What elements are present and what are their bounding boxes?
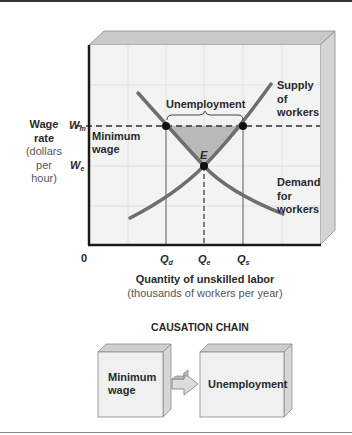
- x-axis-title: Quantity of unskilled labor (thousands o…: [55, 272, 352, 300]
- effect-box-label: Unemployment: [208, 378, 287, 391]
- minimum-wage-label: Minimum wage: [92, 130, 140, 156]
- bottom-rule: [0, 432, 352, 433]
- y-axis-title: Wage rate (dollars per hour): [14, 118, 74, 186]
- labor-market-diagram: [0, 0, 352, 435]
- cause-box-top: [98, 344, 171, 352]
- we-tick-label: We: [70, 159, 84, 172]
- qd-tick-label: Qd: [160, 253, 173, 266]
- qs-tick-label: Qs: [237, 253, 249, 266]
- supply-label: Supply of workers: [277, 79, 319, 120]
- causation-chain-title: CAUSATION CHAIN: [140, 321, 260, 333]
- equilibrium-point: [200, 162, 208, 170]
- y-axis-units-line2: per: [14, 159, 74, 173]
- unemployment-label: Unemployment: [166, 98, 245, 111]
- equilibrium-label: E: [200, 149, 207, 161]
- y-axis-title-line2: rate: [14, 132, 74, 146]
- x-axis-title-line: Quantity of unskilled labor: [55, 272, 352, 286]
- cause-box-side: [163, 344, 171, 417]
- qe-tick-label: Qe: [198, 253, 210, 266]
- chart-box-top-bevel: [89, 31, 335, 45]
- qd-point: [162, 122, 170, 130]
- y-axis-title-line1: Wage: [14, 118, 74, 132]
- x-axis-units-line: (thousands of workers per year): [55, 286, 352, 300]
- cause-box-label: Minimum wage: [108, 371, 156, 397]
- origin-label: 0: [81, 252, 87, 264]
- chart-box-side-bevel: [320, 31, 335, 245]
- effect-box-top: [200, 344, 292, 352]
- y-axis-units-line1: (dollars: [14, 145, 74, 159]
- qs-point: [239, 122, 247, 130]
- wm-tick-label: Wm: [69, 119, 86, 132]
- demand-label: Demand for workers: [277, 176, 320, 217]
- y-axis-units-line3: hour): [14, 172, 74, 186]
